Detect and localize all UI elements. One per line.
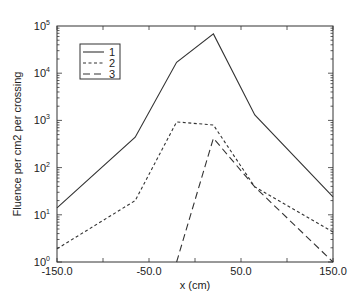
y-tick-label: 105	[34, 19, 50, 32]
x-tick-labels: -150.0-50.050.0150.0	[41, 265, 346, 277]
y-tick-label: 104	[34, 66, 50, 79]
x-tick-label: 150.0	[319, 265, 347, 277]
y-axis-label: Fluence per cm2 per crossing	[11, 72, 23, 217]
legend: 123	[80, 44, 120, 80]
y-tick-label: 101	[34, 208, 50, 221]
x-tick-label: -50.0	[136, 265, 161, 277]
y-tick-label: 103	[34, 113, 50, 126]
x-tick-label: -150.0	[41, 265, 72, 277]
y-tick-labels: 100101102103104105	[34, 19, 50, 268]
legend-label-3: 3	[109, 68, 115, 80]
series-line-2	[57, 122, 333, 249]
chart: 100101102103104105 -150.0-50.050.0150.0 …	[0, 0, 362, 305]
series-line-3	[177, 138, 333, 262]
x-axis-label: x (cm)	[180, 279, 211, 291]
y-tick-label: 102	[34, 161, 50, 174]
x-tick-label: 50.0	[230, 265, 251, 277]
